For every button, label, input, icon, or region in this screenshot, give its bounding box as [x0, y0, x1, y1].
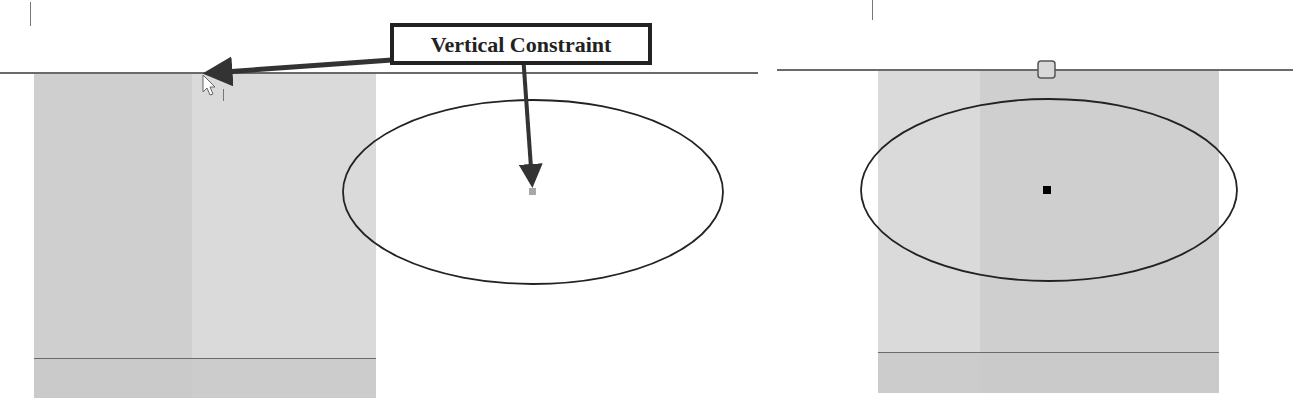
right-ellipse-center-point[interactable] [1043, 186, 1051, 194]
left-ellipse-center-point[interactable] [529, 188, 536, 195]
callout-label: Vertical Constraint [431, 32, 612, 57]
vertical-constraint-callout: Vertical Constraint [390, 23, 652, 65]
vertical-constraint-icon[interactable] [1038, 61, 1055, 78]
callout-arrow-to-origin [210, 60, 392, 73]
pointer-cursor-icon [203, 75, 215, 95]
